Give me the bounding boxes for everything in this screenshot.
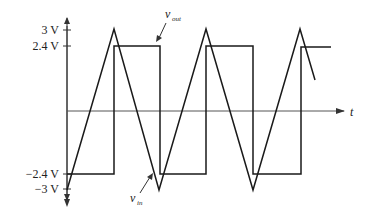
vin-label: v in [130, 173, 153, 207]
vin-pointer-arrow-icon [147, 173, 153, 180]
vout-square-wave [67, 46, 331, 174]
svg-text:v: v [165, 7, 171, 21]
y-axis-down-arrow-icon [64, 199, 70, 207]
svg-text:v: v [130, 191, 136, 205]
svg-text:in: in [137, 199, 143, 207]
t-axis-label: t [350, 105, 354, 119]
tick-label-neg-2.4v: −2.4 V [26, 167, 60, 181]
waveform-diagram: 3 V 2.4 V −2.4 V −3 V t v out v in [0, 0, 371, 217]
tick-label-3v: 3 V [42, 23, 60, 37]
svg-text:out: out [172, 15, 182, 23]
vout-pointer-arrow-icon [156, 35, 162, 42]
tick-label-neg-3v: −3 V [35, 182, 60, 196]
tick-label-2.4v: 2.4 V [33, 39, 60, 53]
t-axis-arrow-icon [336, 108, 345, 114]
vin-triangle-wave [67, 29, 315, 190]
vout-label: v out [156, 7, 182, 42]
